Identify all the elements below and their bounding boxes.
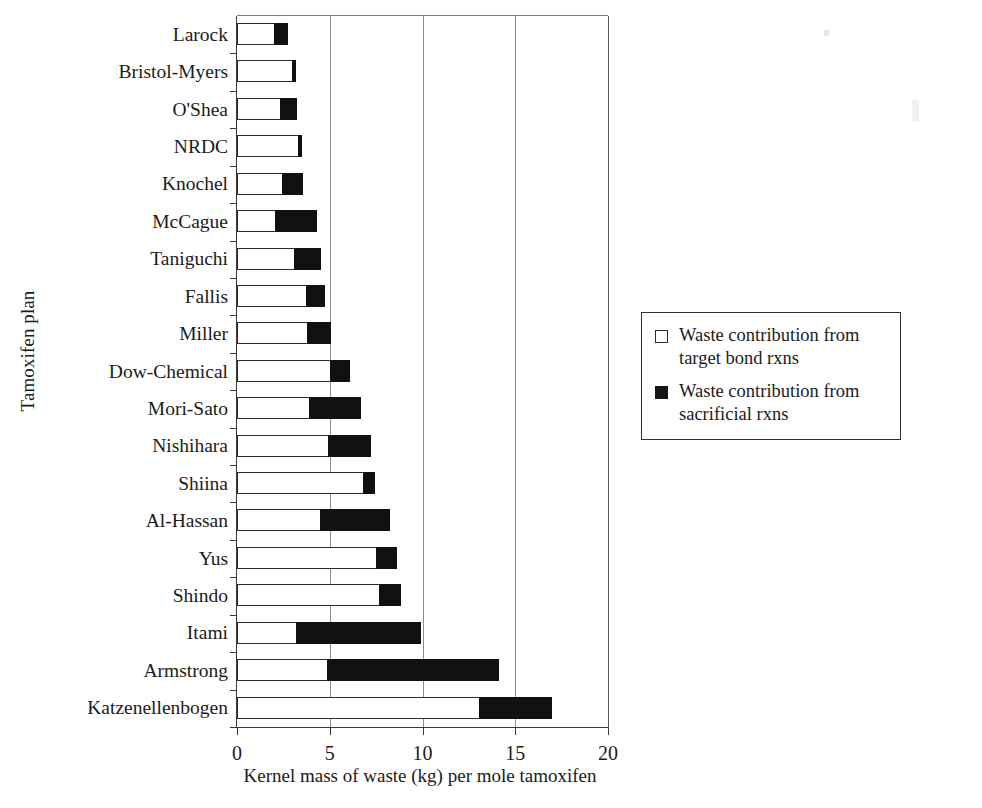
y-tick-mark [230,353,237,354]
x-tick-mark [237,727,238,735]
bar-segment-sacrificial [298,135,302,157]
stacked-bar[interactable] [237,584,401,606]
y-tick-mark [230,502,237,503]
bar-segment-sacrificial [275,210,317,232]
y-tick-label: Knochel [0,174,228,194]
stacked-bar[interactable] [237,322,331,344]
y-tick-label: NRDC [0,137,228,157]
bar-segment-sacrificial [330,360,350,382]
scan-artifact [912,100,919,122]
y-tick-label: O'Shea [0,100,228,120]
bar-row [237,353,608,390]
bar-segment-target-bond [237,135,298,157]
bar-row [237,166,608,203]
stacked-bar[interactable] [237,697,552,719]
stacked-bar[interactable] [237,509,390,531]
stacked-bar[interactable] [237,210,317,232]
stacked-bar[interactable] [237,173,303,195]
bar-segment-sacrificial [363,472,375,494]
gridline [608,16,609,727]
chart-legend: Waste contribution fromtarget bond rxns … [641,312,901,440]
y-tick-mark [230,315,237,316]
bar-segment-sacrificial [282,173,303,195]
bar-row [237,577,608,614]
y-tick-mark [230,652,237,653]
legend-item[interactable]: Waste contribution fromtarget bond rxns [655,324,890,369]
y-tick-mark [230,203,237,204]
stacked-bar[interactable] [237,622,421,644]
y-tick-label: Al-Hassan [0,511,228,531]
x-tick-label: 0 [207,742,267,765]
bar-row [237,465,608,502]
bar-segment-target-bond [237,98,280,120]
bar-segment-sacrificial [328,435,372,457]
y-tick-label: McCague [0,212,228,232]
x-tick-mark [330,727,331,735]
legend-item-label: Waste contribution fromtarget bond rxns [679,324,859,369]
stacked-bar[interactable] [237,360,350,382]
bar-segment-target-bond [237,322,307,344]
y-tick-mark [230,690,237,691]
bar-segment-target-bond [237,547,376,569]
stacked-bar[interactable] [237,547,397,569]
stacked-bar[interactable] [237,98,297,120]
bar-segment-target-bond [237,472,363,494]
bar-segment-target-bond [237,23,274,45]
plot-area: 05101520 [236,16,608,727]
x-tick-mark [608,727,609,735]
stacked-bar[interactable] [237,23,288,45]
y-tick-mark [230,428,237,429]
bar-segment-sacrificial [274,23,288,45]
y-tick-label: Larock [0,25,228,45]
bar-segment-sacrificial [309,397,361,419]
bar-segment-target-bond [237,435,328,457]
y-tick-mark [230,128,237,129]
x-tick-mark [423,727,424,735]
stacked-bar[interactable] [237,397,361,419]
y-tick-label: Itami [0,623,228,643]
bar-segment-target-bond [237,285,306,307]
bar-segment-target-bond [237,584,379,606]
bar-segment-target-bond [237,210,275,232]
stacked-bar[interactable] [237,472,375,494]
bar-segment-target-bond [237,659,327,681]
x-tick-mark [515,727,516,735]
bar-row [237,428,608,465]
x-axis-title: Kernel mass of waste (kg) per mole tamox… [140,765,700,787]
bar-segment-sacrificial [376,547,396,569]
chart-figure: Tamoxifen plan Kernel mass of waste (kg)… [0,0,982,808]
bar-row [237,53,608,90]
bar-row [237,278,608,315]
stacked-bar[interactable] [237,248,321,270]
bar-segment-sacrificial [327,659,499,681]
y-tick-label: Mori-Sato [0,399,228,419]
bar-segment-target-bond [237,360,330,382]
stacked-bar[interactable] [237,285,325,307]
stacked-bar[interactable] [237,435,371,457]
open-square-icon [655,330,668,343]
bar-segment-target-bond [237,697,479,719]
bar-row [237,241,608,278]
y-tick-mark [230,540,237,541]
bar-segment-target-bond [237,622,296,644]
stacked-bar[interactable] [237,135,302,157]
stacked-bar[interactable] [237,659,499,681]
y-tick-label: Dow-Chemical [0,362,228,382]
bar-segment-sacrificial [292,60,297,82]
y-tick-label: Shiina [0,474,228,494]
legend-item[interactable]: Waste contribution fromsacrificial rxns [655,380,890,425]
legend-item-label: Waste contribution fromsacrificial rxns [679,380,859,425]
stacked-bar[interactable] [237,60,296,82]
y-tick-label: Bristol-Myers [0,62,228,82]
bar-row [237,690,608,727]
bar-segment-target-bond [237,248,294,270]
bar-segment-target-bond [237,173,282,195]
y-tick-label: Shindo [0,586,228,606]
y-tick-mark [230,390,237,391]
y-tick-label: Yus [0,549,228,569]
y-tick-mark [230,241,237,242]
y-tick-mark [230,166,237,167]
y-tick-mark [230,91,237,92]
bar-segment-sacrificial [307,322,330,344]
y-tick-label: Taniguchi [0,249,228,269]
